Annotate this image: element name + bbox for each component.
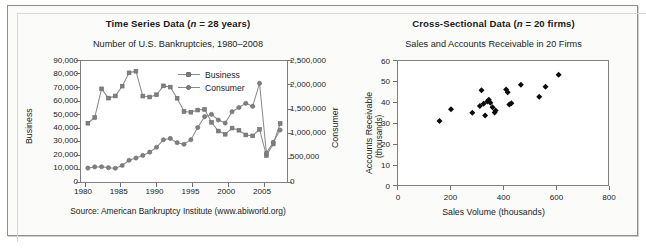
- left-ytick-0: 0: [26, 177, 78, 186]
- right-ytickmark-500000: [288, 158, 292, 159]
- scatter-point-0: [436, 118, 442, 124]
- right-ytickmark-1500000: [288, 109, 292, 110]
- left-ytickmark-50000: [76, 114, 80, 115]
- datapoint-business-1992: [168, 85, 172, 89]
- left-ytick-80000: 80,000: [26, 69, 78, 78]
- datapoint-business-1991: [162, 83, 166, 87]
- datapoint-business-1997: [203, 107, 207, 111]
- legend-label-business: Business: [205, 70, 240, 80]
- right-ytick-2000000: 2,000,000: [290, 80, 326, 89]
- datapoint-consumer-1999: [216, 117, 220, 121]
- datapoint-consumer-1985: [120, 163, 124, 167]
- scatter-point-2: [469, 110, 475, 116]
- left-xtick-1995: 1995: [181, 187, 199, 196]
- scatter-xtick-600: 600: [547, 193, 566, 202]
- left-ytick-50000: 50,000: [26, 110, 78, 119]
- datapoint-consumer-1998: [209, 112, 213, 116]
- figure-plate: Time Series Data (n = 28 years) Number o…: [7, 5, 638, 236]
- scatter-ytick-0: 0: [372, 182, 390, 191]
- datapoint-consumer-1983: [106, 165, 110, 169]
- right-panel-title-tail: = 20 firms): [523, 18, 575, 29]
- datapoint-consumer-2005: [257, 81, 261, 85]
- left-panel-title-tail: = 28 years): [197, 18, 251, 29]
- scatter-xtickmark-400: [503, 186, 504, 190]
- left-xtickmark-1990: [156, 183, 157, 187]
- scatter-ytick-60: 60: [372, 57, 390, 66]
- datapoint-consumer-2001: [230, 109, 234, 113]
- left-ytickmark-60000: [76, 101, 80, 102]
- left-ytickmark-90000: [76, 60, 80, 61]
- datapoint-consumer-2004: [251, 104, 255, 108]
- datapoint-business-1999: [216, 129, 220, 133]
- scatter-ytick-10: 10: [372, 161, 390, 170]
- left-ytick-40000: 40,000: [26, 123, 78, 132]
- left-ytickmark-40000: [76, 128, 80, 129]
- right-ytickmark-2500000: [288, 60, 292, 61]
- datapoint-business-1989: [148, 95, 152, 99]
- legend-item-business: Business: [178, 68, 245, 81]
- datapoint-business-1990: [155, 92, 159, 96]
- scatter-ytick-40: 40: [372, 98, 390, 107]
- datapoint-business-1983: [107, 96, 111, 100]
- datapoint-consumer-1992: [168, 136, 172, 140]
- legend-item-consumer: Consumer: [178, 81, 245, 94]
- scatter-point-19: [543, 84, 549, 90]
- left-xtickmark-1985: [120, 183, 121, 187]
- scatter-xtickmark-600: [556, 186, 557, 190]
- legend-marker-consumer-icon: [178, 83, 200, 92]
- left-ytickmark-20000: [76, 155, 80, 156]
- right-ytickmark-0: [288, 182, 292, 183]
- datapoint-business-1993: [175, 96, 179, 100]
- scatter-ytick-20: 20: [372, 140, 390, 149]
- left-xtick-2000: 2000: [217, 187, 235, 196]
- panel-time-series: Time Series Data (n = 28 years) Number o…: [8, 6, 348, 237]
- scatter-xtick-0: 0: [394, 193, 402, 202]
- datapoint-business-1980: [86, 121, 90, 125]
- datapoint-consumer-1994: [182, 142, 186, 146]
- datapoint-consumer-1988: [141, 153, 145, 157]
- left-ytickmark-0: [76, 182, 80, 183]
- datapoint-consumer-1995: [189, 137, 193, 141]
- scatter-ytick-30: 30: [372, 119, 390, 128]
- scatter-xtickmark-200: [450, 186, 451, 190]
- datapoint-business-1988: [141, 94, 145, 98]
- datapoint-business-2005: [258, 127, 262, 131]
- left-ytick-20000: 20,000: [26, 150, 78, 159]
- left-panel-title-lead: Time Series Data (: [106, 18, 191, 29]
- datapoint-consumer-1987: [134, 155, 138, 159]
- left-xtickmark-2005: [264, 183, 265, 187]
- datapoint-business-2004: [251, 133, 255, 137]
- scatter-plot-area: [397, 60, 609, 186]
- scatter-point-18: [536, 94, 542, 100]
- datapoint-consumer-2008: [278, 127, 282, 131]
- left-xtickmark-1995: [192, 183, 193, 187]
- datapoint-business-1998: [210, 120, 214, 124]
- datapoint-consumer-1980: [86, 165, 90, 169]
- scatter-point-4: [478, 87, 484, 93]
- figure-container: Time Series Data (n = 28 years) Number o…: [0, 0, 646, 248]
- scatter-xtickmark-0: [397, 186, 398, 190]
- left-ytickmark-30000: [76, 141, 80, 142]
- scatter-point-17: [518, 82, 524, 88]
- scatter-xtickmark-800: [609, 186, 610, 190]
- legend-label-consumer: Consumer: [205, 83, 245, 93]
- scatter-svg: [398, 61, 608, 185]
- datapoint-business-2008: [278, 121, 282, 125]
- datapoint-consumer-2006: [264, 150, 268, 154]
- right-ytickmark-2000000: [288, 84, 292, 85]
- left-panel-title: Time Series Data (n = 28 years): [8, 18, 348, 29]
- datapoint-business-1986: [127, 70, 131, 74]
- scatter-x-axis-title: Sales Volume (thousands): [348, 207, 639, 217]
- datapoint-consumer-1981: [93, 164, 97, 168]
- datapoint-consumer-2002: [237, 105, 241, 109]
- datapoint-business-1982: [100, 86, 104, 90]
- left-xtick-1980: 1980: [74, 187, 92, 196]
- right-ytickmark-1000000: [288, 133, 292, 134]
- right-panel-title: Cross-Sectional Data (n = 20 firms): [348, 18, 639, 29]
- left-ytick-60000: 60,000: [26, 96, 78, 105]
- datapoint-business-1994: [182, 109, 186, 113]
- datapoint-consumer-2003: [244, 101, 248, 105]
- right-ytick-500000: 500,000: [290, 152, 319, 161]
- datapoint-business-2000: [223, 132, 227, 136]
- time-series-legend: Business Consumer: [178, 68, 245, 94]
